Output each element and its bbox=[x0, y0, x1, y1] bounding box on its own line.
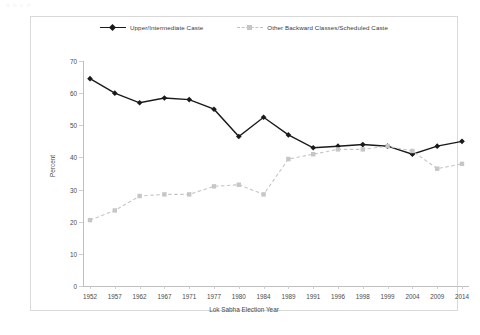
x-axis-tick-label: 1967 bbox=[157, 293, 171, 300]
chart-frame: Upper/Intermediate Caste Other Backward … bbox=[30, 16, 458, 311]
x-axis-tick bbox=[288, 286, 289, 289]
x-axis-tick bbox=[412, 286, 413, 289]
data-point bbox=[361, 147, 365, 151]
y-axis-tick bbox=[79, 157, 83, 158]
data-point bbox=[113, 208, 117, 212]
data-point bbox=[186, 97, 192, 103]
chart-page: a b c d Upper/Intermediate Caste Other B… bbox=[0, 0, 480, 335]
y-axis-tick bbox=[79, 61, 83, 62]
plot-area: 0102030405060701952195719621967197119771… bbox=[83, 61, 469, 293]
faint-header-text: a b c d bbox=[6, 2, 31, 8]
x-axis-tick-label: 1996 bbox=[331, 293, 345, 300]
data-point bbox=[261, 192, 265, 196]
data-point bbox=[137, 100, 143, 106]
data-point bbox=[137, 194, 141, 198]
x-axis-tick-label: 1999 bbox=[381, 293, 395, 300]
x-axis-tick bbox=[115, 286, 116, 289]
series-line-1 bbox=[90, 146, 462, 220]
y-axis-tick bbox=[79, 222, 83, 223]
y-axis-tick bbox=[79, 190, 83, 191]
x-axis-tick bbox=[264, 286, 265, 289]
x-axis-tick bbox=[239, 286, 240, 289]
x-axis-tick bbox=[313, 286, 314, 289]
y-axis-tick bbox=[79, 254, 83, 255]
x-axis-tick-label: 1957 bbox=[108, 293, 122, 300]
x-axis-tick-label: 1989 bbox=[281, 293, 295, 300]
x-axis-tick-label: 2009 bbox=[430, 293, 444, 300]
x-axis-tick-label: 1977 bbox=[207, 293, 221, 300]
legend-item-obc-sc: Other Backward Classes/Scheduled Caste bbox=[237, 23, 388, 31]
x-axis-tick bbox=[462, 286, 463, 289]
x-axis-tick-label: 1998 bbox=[356, 293, 370, 300]
x-axis-tick bbox=[437, 286, 438, 289]
x-axis-tick-label: 2004 bbox=[405, 293, 419, 300]
y-axis-tick-label: 10 bbox=[70, 250, 77, 257]
data-point bbox=[310, 145, 316, 151]
x-axis-tick-label: 1971 bbox=[182, 293, 196, 300]
y-axis-tick-label: 60 bbox=[70, 90, 77, 97]
y-axis-tick-label: 0 bbox=[73, 283, 77, 290]
data-point bbox=[212, 184, 216, 188]
legend-marker-solid-diamond-icon bbox=[100, 23, 126, 31]
data-point bbox=[187, 192, 191, 196]
data-point bbox=[385, 144, 389, 148]
y-axis-tick bbox=[79, 125, 83, 126]
data-point bbox=[460, 162, 464, 166]
y-axis-tick-label: 20 bbox=[70, 218, 77, 225]
legend-label-upper-intermediate-caste: Upper/Intermediate Caste bbox=[130, 24, 203, 31]
data-point bbox=[435, 166, 439, 170]
x-axis-tick-label: 1984 bbox=[257, 293, 271, 300]
data-point bbox=[434, 143, 440, 149]
data-point bbox=[88, 218, 92, 222]
x-axis-tick bbox=[363, 286, 364, 289]
series-line-0 bbox=[90, 79, 462, 155]
data-point bbox=[87, 76, 93, 82]
x-axis-tick-label: 1962 bbox=[133, 293, 147, 300]
x-axis-tick bbox=[189, 286, 190, 289]
legend-label-obc-sc: Other Backward Classes/Scheduled Caste bbox=[267, 24, 388, 31]
legend-item-upper-intermediate-caste: Upper/Intermediate Caste bbox=[100, 23, 203, 31]
y-axis-tick bbox=[79, 286, 83, 287]
y-axis-tick-label: 40 bbox=[70, 154, 77, 161]
x-axis-tick-label: 1952 bbox=[83, 293, 97, 300]
y-axis-tick-label: 50 bbox=[70, 122, 77, 129]
x-axis-tick bbox=[90, 286, 91, 289]
series-layer bbox=[83, 61, 469, 293]
x-axis-tick-label: 1991 bbox=[306, 293, 320, 300]
x-axis-tick bbox=[140, 286, 141, 289]
x-axis-tick bbox=[164, 286, 165, 289]
y-axis-tick-label: 30 bbox=[70, 186, 77, 193]
data-point bbox=[459, 139, 465, 145]
y-axis-tick-label: 70 bbox=[70, 58, 77, 65]
data-point bbox=[410, 149, 414, 153]
data-point bbox=[162, 95, 168, 101]
x-axis-tick-label: 1980 bbox=[232, 293, 246, 300]
x-axis-tick bbox=[338, 286, 339, 289]
x-axis-tick bbox=[214, 286, 215, 289]
x-axis-tick-label: 2014 bbox=[455, 293, 469, 300]
data-point bbox=[112, 90, 118, 96]
x-axis-title: Lok Sabha Election Year bbox=[31, 306, 457, 313]
data-point bbox=[162, 192, 166, 196]
y-axis-title: Percent bbox=[49, 155, 56, 177]
data-point bbox=[360, 142, 366, 148]
data-point bbox=[336, 147, 340, 151]
data-point bbox=[286, 157, 290, 161]
y-axis-tick bbox=[79, 93, 83, 94]
x-axis-tick bbox=[388, 286, 389, 289]
data-point bbox=[237, 183, 241, 187]
legend-marker-dashed-square-icon bbox=[237, 23, 263, 31]
chart-legend: Upper/Intermediate Caste Other Backward … bbox=[31, 23, 457, 31]
data-point bbox=[311, 152, 315, 156]
